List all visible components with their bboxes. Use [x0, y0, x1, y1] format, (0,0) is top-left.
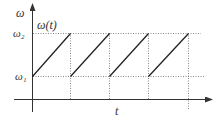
sawtooth-curve: [33, 34, 189, 77]
sawtooth-diagram: ω ω₂ ω(t) ω₁ t: [0, 0, 221, 119]
ramp-1: [33, 34, 71, 77]
curve-label: ω(t): [37, 18, 57, 32]
ramp-4: [149, 34, 189, 77]
ramp-3: [110, 34, 149, 77]
lower-level-label: ω₁: [15, 70, 27, 82]
upper-level-label: ω₂: [13, 27, 25, 39]
x-axis-label: t: [115, 104, 119, 118]
ramp-2: [71, 34, 110, 77]
y-axis-label: ω: [16, 6, 24, 20]
